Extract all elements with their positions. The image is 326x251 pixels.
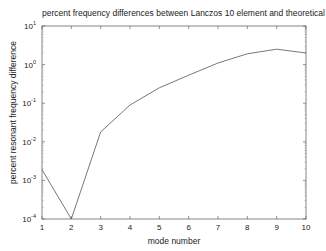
- y-tick-label: 101: [24, 20, 36, 31]
- x-tick-label: 2: [69, 223, 74, 232]
- x-tick-label: 3: [98, 223, 103, 232]
- y-tick-label: 10-3: [22, 174, 36, 185]
- x-tick-label: 9: [274, 223, 279, 232]
- x-tick-label: 5: [157, 223, 162, 232]
- x-tick-label: 1: [40, 223, 45, 232]
- x-tick-label: 6: [186, 223, 191, 232]
- x-tick-label: 10: [302, 223, 311, 232]
- x-tick-label: 7: [216, 223, 221, 232]
- y-tick-label: 10-4: [22, 213, 36, 224]
- x-tick-label: 4: [128, 223, 133, 232]
- x-tick-label: 8: [245, 223, 250, 232]
- plot-area: [42, 26, 306, 219]
- line-chart: 12345678910 10-410-310-210-1100101: [0, 0, 326, 251]
- y-tick-label: 10-1: [22, 97, 36, 108]
- y-tick-label: 10-2: [22, 136, 36, 147]
- y-tick-label: 100: [24, 59, 36, 70]
